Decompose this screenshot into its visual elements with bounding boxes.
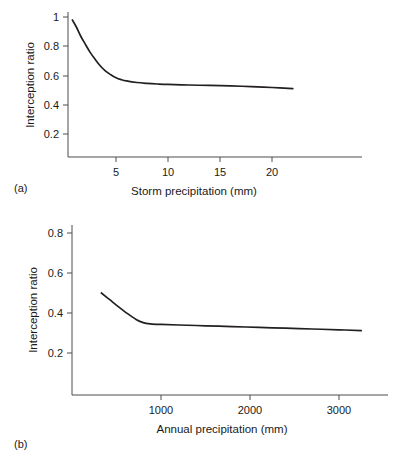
chart-b-x-tick-labels: 1000 2000 3000	[149, 404, 351, 416]
chart-b-ytick-1: 0.4	[48, 307, 63, 319]
chart-a-data-line	[72, 20, 292, 89]
chart-b-y-axis-title: Interception ratio	[27, 267, 39, 353]
chart-a-xtick-3: 20	[266, 166, 278, 178]
chart-b-svg: 0.8 0.6 0.4 0.2 1000 2000 3000 Annual pr…	[0, 210, 417, 455]
chart-panel-a: 1 0.8 0.6 0.4 0.2 5 10 15 20 Storm preci…	[0, 0, 417, 205]
chart-a-y-tick-labels: 1 0.8 0.6 0.4 0.2	[44, 11, 59, 140]
chart-a-ytick-3: 0.8	[44, 40, 59, 52]
chart-a-svg: 1 0.8 0.6 0.4 0.2 5 10 15 20 Storm preci…	[0, 0, 417, 205]
chart-a-x-ticks	[116, 157, 272, 162]
chart-a-y-ticks	[63, 17, 68, 134]
panel-a-label: (a)	[14, 182, 27, 194]
chart-b-ytick-0: 0.2	[48, 347, 63, 359]
chart-a-ytick-1: 0.4	[44, 99, 59, 111]
figure-container: 1 0.8 0.6 0.4 0.2 5 10 15 20 Storm preci…	[0, 0, 417, 455]
chart-b-data-line	[101, 293, 361, 331]
chart-panel-b: 0.8 0.6 0.4 0.2 1000 2000 3000 Annual pr…	[0, 210, 417, 455]
chart-a-x-axis-title: Storm precipitation (mm)	[131, 185, 257, 197]
chart-b-axes	[72, 225, 388, 395]
chart-b-y-tick-labels: 0.8 0.6 0.4 0.2	[48, 227, 63, 359]
chart-b-x-axis-title: Annual precipitation (mm)	[156, 423, 287, 435]
chart-a-x-tick-labels: 5 10 15 20	[113, 166, 278, 178]
chart-a-y-axis-title: Interception ratio	[24, 42, 36, 128]
panel-b-label: (b)	[14, 438, 27, 450]
chart-b-x-ticks	[161, 395, 339, 400]
chart-a-ytick-2: 0.6	[44, 70, 59, 82]
chart-b-y-ticks	[67, 233, 72, 353]
chart-a-ytick-4: 1	[53, 11, 59, 23]
chart-a-xtick-2: 15	[214, 166, 226, 178]
chart-b-xtick-0: 1000	[149, 404, 173, 416]
chart-b-xtick-2: 3000	[327, 404, 351, 416]
chart-a-axes	[68, 12, 362, 157]
chart-b-ytick-3: 0.8	[48, 227, 63, 239]
chart-a-ytick-0: 0.2	[44, 128, 59, 140]
chart-a-xtick-1: 10	[162, 166, 174, 178]
chart-b-xtick-1: 2000	[238, 404, 262, 416]
chart-b-ytick-2: 0.6	[48, 267, 63, 279]
chart-a-xtick-0: 5	[113, 166, 119, 178]
